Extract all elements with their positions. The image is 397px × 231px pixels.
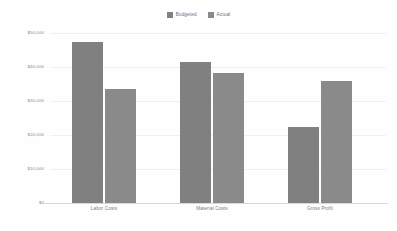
x-tick-label-material-costs: Material Costs [152,207,272,212]
x-axis-line [44,203,388,204]
bar-chart: Budgeted Actual $50,000 $40,000 $30,000 … [0,0,397,231]
legend-label-budgeted: Budgeted [176,13,197,18]
x-tick-label-labor-costs: Labor Costs [44,207,164,212]
legend-entry-budgeted[interactable]: Budgeted [167,12,197,18]
bar-material-costs-budgeted[interactable] [180,62,211,203]
bar-material-costs-actual[interactable] [213,73,244,203]
plot-area [50,33,386,203]
legend-label-actual: Actual [217,13,231,18]
legend-swatch-actual [208,12,214,18]
y-tick-label: $40,000 [4,65,44,69]
y-tick-label: $10,000 [4,167,44,171]
y-tick-label: $0 [4,201,44,205]
legend-swatch-budgeted [167,12,173,18]
y-tick-label: $30,000 [4,99,44,103]
bar-gross-profit-budgeted[interactable] [288,127,319,203]
bar-group-labor-costs [72,33,136,203]
legend-entry-actual[interactable]: Actual [208,12,231,18]
bar-group-gross-profit [288,33,352,203]
bar-labor-costs-budgeted[interactable] [72,42,103,203]
bar-labor-costs-actual[interactable] [105,89,136,203]
bar-group-material-costs [180,33,244,203]
chart-legend: Budgeted Actual [0,12,397,18]
y-tick-label: $20,000 [4,133,44,137]
x-tick-label-gross-profit: Gross Profit [260,207,380,212]
y-tick-label: $50,000 [4,31,44,35]
bar-gross-profit-actual[interactable] [321,81,352,203]
